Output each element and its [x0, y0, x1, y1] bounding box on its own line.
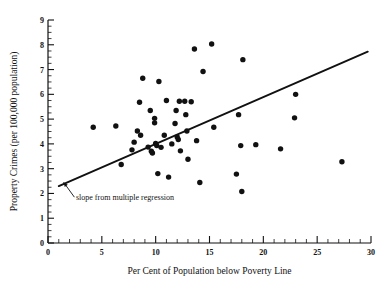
x-tick-label: 30: [367, 248, 375, 257]
data-point: [152, 116, 157, 121]
data-point: [91, 125, 96, 130]
x-tick-label: 0: [46, 248, 50, 257]
x-tick-label: 15: [206, 248, 214, 257]
y-axis-title: Property Crimes (per 100,000 population): [9, 52, 20, 212]
x-tick-label: 25: [313, 248, 321, 257]
y-tick-label: 4: [40, 140, 44, 149]
data-point: [238, 143, 243, 148]
data-point: [155, 171, 160, 176]
data-point: [150, 150, 155, 155]
data-point: [177, 99, 182, 104]
data-point: [278, 146, 283, 151]
data-point: [173, 108, 178, 113]
data-point: [166, 174, 171, 179]
scatter-plot-figure: 0123456789 051015202530 slope from multi…: [0, 0, 391, 283]
data-point: [148, 108, 153, 113]
data-point: [292, 115, 297, 120]
data-point: [156, 79, 161, 84]
data-point: [234, 171, 239, 176]
data-point: [339, 159, 344, 164]
y-tick-label: 1: [40, 214, 44, 223]
data-point: [129, 147, 134, 152]
data-point: [197, 180, 202, 185]
data-point: [158, 145, 163, 150]
data-point: [140, 76, 145, 81]
data-point: [182, 99, 187, 104]
y-tick-label: 6: [40, 90, 44, 99]
data-point: [138, 133, 143, 138]
chart-canvas: 0123456789 051015202530 slope from multi…: [0, 0, 391, 283]
y-tick-label: 9: [40, 16, 44, 25]
data-point: [164, 98, 169, 103]
data-point: [137, 100, 142, 105]
data-point: [200, 69, 205, 74]
data-point: [176, 137, 181, 142]
data-point: [253, 142, 258, 147]
data-point: [209, 41, 214, 46]
x-tick-label: 10: [152, 248, 160, 257]
data-point: [169, 141, 174, 146]
data-point: [113, 123, 118, 128]
y-tick-label: 2: [40, 189, 44, 198]
data-point: [192, 46, 197, 51]
y-tick-label: 5: [40, 115, 44, 124]
data-point: [293, 92, 298, 97]
data-point: [239, 189, 244, 194]
x-tick-label: 20: [259, 248, 267, 257]
data-point: [184, 128, 189, 133]
data-point: [162, 133, 167, 138]
y-tick-label: 8: [40, 41, 44, 50]
data-point: [131, 139, 136, 144]
data-point: [236, 112, 241, 117]
x-tick-label: 5: [100, 248, 104, 257]
y-tick-label: 3: [40, 165, 44, 174]
regression-annotation-label: slope from multiple regression: [76, 193, 174, 202]
data-point: [185, 157, 190, 162]
data-point: [240, 57, 245, 62]
data-point: [119, 162, 124, 167]
data-point: [194, 138, 199, 143]
data-point: [178, 148, 183, 153]
data-point: [183, 112, 188, 117]
data-point: [211, 125, 216, 130]
data-point: [188, 99, 193, 104]
y-tick-label: 0: [40, 239, 44, 248]
data-point: [172, 121, 177, 126]
y-tick-label: 7: [40, 66, 44, 75]
x-axis-title: Per Cent of Population below Poverty Lin…: [127, 266, 291, 276]
